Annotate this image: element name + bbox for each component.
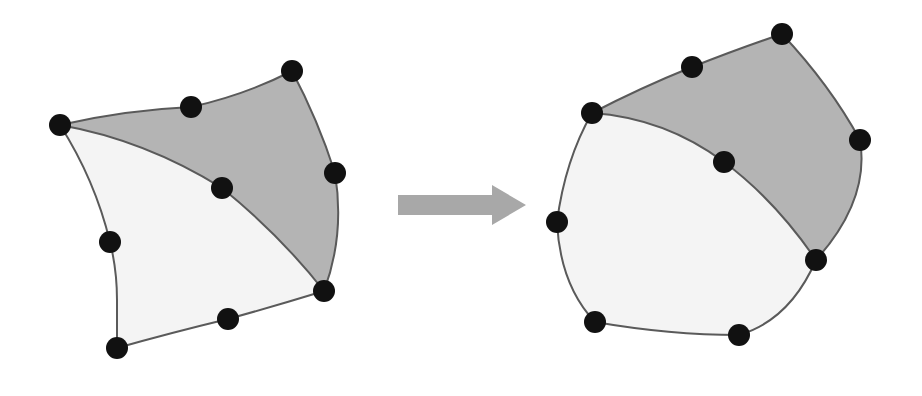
right-arrow-icon [398,185,526,225]
node-d [849,129,871,151]
node-h [99,231,121,253]
node-e [805,249,827,271]
node-a [49,114,71,136]
node-b [681,56,703,78]
node-i [211,177,233,199]
node-b [180,96,202,118]
node-g [584,311,606,333]
node-h [546,211,568,233]
node-f [217,308,239,330]
node-i [713,151,735,173]
deformation-diagram [0,0,922,396]
node-g [106,337,128,359]
node-c [771,23,793,45]
node-d [324,162,346,184]
element-before [49,60,346,359]
node-f [728,324,750,346]
element-after [546,23,871,346]
node-a [581,102,603,124]
node-e [313,280,335,302]
node-c [281,60,303,82]
